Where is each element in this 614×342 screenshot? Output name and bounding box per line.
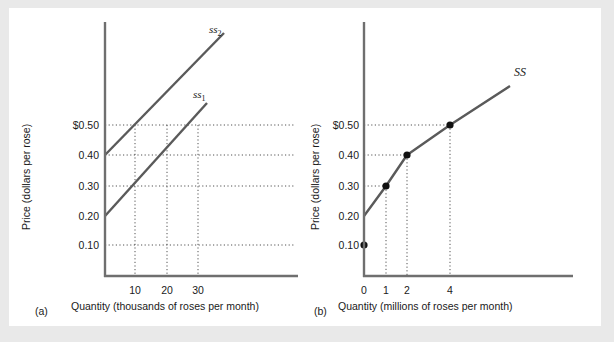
panel-b-caption: (b) xyxy=(314,305,327,317)
panel-a-ytick-3: 0.20 xyxy=(51,210,99,222)
panel-b-x-axis-label: Quantity (millions of roses per month) xyxy=(338,300,512,312)
figure-container: Price (dollars per rose) $0.50 0.40 0.30… xyxy=(0,0,614,342)
panel-a-x-axis-label: Quantity (thousands of roses per month) xyxy=(71,300,259,312)
curve-label-ss2-sub: 2 xyxy=(218,29,222,38)
panel-a-ytick-2: 0.30 xyxy=(51,180,99,192)
data-point-2 xyxy=(403,151,410,158)
figure-sheet: Price (dollars per rose) $0.50 0.40 0.30… xyxy=(9,8,601,326)
curve-label-ss1-sub: 1 xyxy=(202,94,206,103)
panel-b: Price (dollars per rose) $0.50 0.40 0.30… xyxy=(305,8,601,326)
curve-label-ss2-base: ss xyxy=(209,23,218,35)
panel-b-ytick-3: 0.20 xyxy=(311,210,359,222)
panel-a-caption: (a) xyxy=(35,305,48,317)
panel-b-ytick-1: 0.40 xyxy=(311,149,359,161)
panel-b-ytick-0: $0.50 xyxy=(311,119,359,131)
data-point-1 xyxy=(382,182,389,189)
panel-b-ytick-2: 0.30 xyxy=(311,180,359,192)
panel-b-xtick-3: 4 xyxy=(436,284,464,296)
panel-b-xtick-2: 2 xyxy=(393,284,421,296)
curve-label-ss1: ss1 xyxy=(193,88,206,103)
panel-a-xtick-2: 30 xyxy=(184,284,212,296)
panel-b-ytick-4: 0.10 xyxy=(311,239,359,251)
supply-curve-ss xyxy=(364,86,510,216)
supply-curve-ss1 xyxy=(105,103,207,216)
panel-a-ytick-4: 0.10 xyxy=(51,239,99,251)
curve-label-ss: SS xyxy=(514,65,526,80)
data-point-3 xyxy=(446,121,453,128)
panel-a-ytick-1: 0.40 xyxy=(51,149,99,161)
panel-a-xtick-0: 10 xyxy=(121,284,149,296)
panel-b-plot xyxy=(305,8,601,326)
supply-curve-ss2 xyxy=(105,33,224,155)
curve-label-ss1-base: ss xyxy=(193,88,202,100)
panel-a-y-axis-label: Price (dollars per rose) xyxy=(20,124,32,230)
panel-a: Price (dollars per rose) $0.50 0.40 0.30… xyxy=(9,8,305,326)
panel-a-plot xyxy=(9,8,305,326)
panel-a-ytick-0: $0.50 xyxy=(51,119,99,131)
curve-label-ss2: ss2 xyxy=(209,23,222,38)
panel-a-xtick-1: 20 xyxy=(153,284,181,296)
